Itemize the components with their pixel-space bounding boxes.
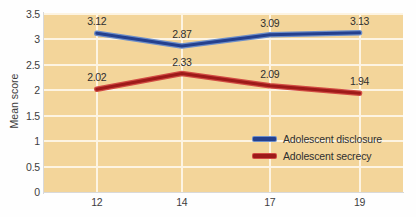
y-tick-label: 3.5 — [0, 8, 40, 20]
series-container — [44, 14, 403, 192]
data-label: 2.09 — [260, 68, 279, 80]
legend-label: Adolescent disclosure — [283, 133, 382, 145]
y-tick-label: 1.5 — [0, 110, 40, 122]
y-axis-title: Mean score — [8, 51, 20, 151]
x-tick-label: 12 — [91, 196, 102, 208]
legend: Adolescent disclosureAdolescent secrecy — [253, 130, 382, 164]
data-label: 1.94 — [350, 75, 369, 87]
line-chart: 00.511.522.533.5 12141719 3.122.873.093.… — [0, 0, 416, 217]
x-axis-line — [43, 192, 404, 193]
legend-item[interactable]: Adolescent disclosure — [253, 130, 382, 147]
x-tick-label: 17 — [264, 196, 275, 208]
data-label: 2.33 — [172, 56, 191, 68]
legend-color-swatch — [253, 137, 276, 141]
legend-label: Adolescent secrecy — [283, 150, 371, 162]
data-label: 2.02 — [87, 71, 106, 83]
legend-item[interactable]: Adolescent secrecy — [253, 147, 382, 164]
y-axis-tick-labels: 00.511.522.533.5 — [0, 0, 40, 217]
y-tick-label: 3 — [0, 33, 40, 45]
y-tick-label: 0 — [0, 186, 40, 198]
y-axis-line — [43, 12, 44, 194]
x-tick-label: 14 — [176, 196, 187, 208]
y-tick-label: 2 — [0, 84, 40, 96]
legend-color-swatch — [253, 154, 276, 158]
data-label: 3.13 — [350, 15, 369, 27]
series-line — [97, 33, 360, 46]
y-tick-label: 0.5 — [0, 161, 40, 173]
data-label: 3.12 — [87, 15, 106, 27]
series-line — [97, 74, 360, 94]
data-label: 2.87 — [172, 28, 191, 40]
data-label: 3.09 — [260, 17, 279, 29]
x-tick-label: 19 — [354, 196, 365, 208]
plot-area — [44, 14, 403, 192]
y-tick-label: 2.5 — [0, 59, 40, 71]
y-tick-label: 1 — [0, 135, 40, 147]
